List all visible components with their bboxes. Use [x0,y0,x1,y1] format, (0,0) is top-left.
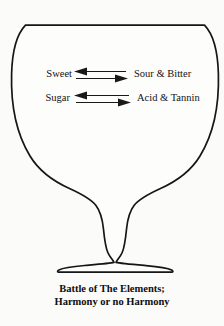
glass-outline-path [12,25,219,272]
label-sweet: Sweet [0,69,72,80]
label-acid-and-tannin: Acid & Tannin [137,93,224,104]
caption-line-1: Battle of The Elements; [0,283,224,296]
wine-glass-illustration [0,0,224,326]
label-sour-and-bitter: Sour & Bitter [134,69,224,80]
label-sugar: Sugar [0,93,70,104]
caption-line-2: Harmony or no Harmony [0,296,224,309]
figure-caption: Battle of The Elements; Harmony or no Ha… [0,283,224,308]
figure-root: Sweet Sour & Bitter Sugar Acid & Tannin … [0,0,224,326]
